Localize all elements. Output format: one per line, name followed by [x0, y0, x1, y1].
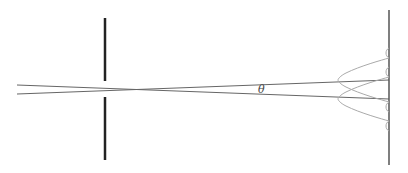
diffraction-diagram: θ [0, 0, 408, 173]
angle-label: θ [258, 83, 265, 96]
